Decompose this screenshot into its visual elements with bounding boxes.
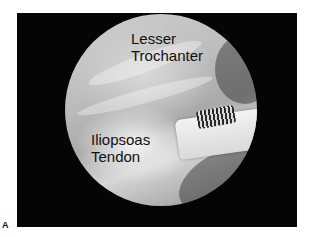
label-line: Trochanter — [131, 47, 203, 64]
shadow-region — [215, 34, 257, 104]
label-lesser-trochanter: Lesser Trochanter — [131, 30, 203, 64]
label-line: Iliopsoas — [91, 131, 150, 148]
label-line: Lesser — [131, 30, 203, 47]
label-line: Tendon — [91, 148, 150, 165]
panel-label: A — [2, 220, 9, 230]
label-iliopsoas-tendon: Iliopsoas Tendon — [91, 131, 150, 165]
arthroscopic-image-frame: Lesser Trochanter Iliopsoas Tendon — [17, 13, 297, 227]
